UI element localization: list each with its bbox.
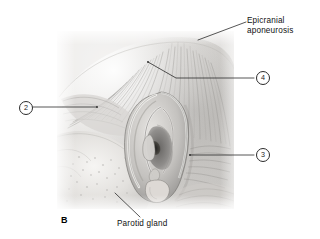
anatomy-illustration-panel <box>57 31 234 209</box>
anatomy-illustration <box>57 31 234 209</box>
label-epicranial-aponeurosis: Epicranial aponeurosis <box>247 16 293 35</box>
label-parotid-gland: Parotid gland <box>117 219 167 229</box>
figure-page: Epicranial aponeurosis Parotid gland 2 4… <box>0 0 320 239</box>
callout-number-2: 2 <box>19 101 33 115</box>
callout-number-4: 4 <box>256 71 270 85</box>
label-epicranial-line1: Epicranial <box>247 16 293 26</box>
callout-number-3: 3 <box>256 148 270 162</box>
label-epicranial-line2: aponeurosis <box>247 26 293 36</box>
figure-letter-label: B <box>61 215 68 225</box>
